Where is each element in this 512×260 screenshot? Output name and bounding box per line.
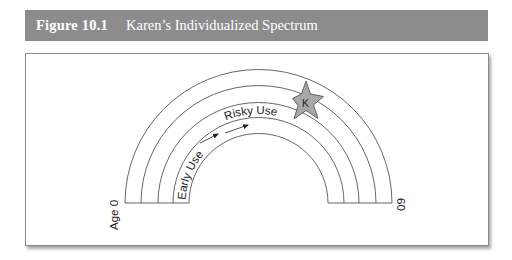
progress-arrows	[200, 125, 248, 143]
early-use-label: Early Use	[176, 148, 206, 200]
star-marker: K	[293, 81, 324, 119]
arc-1	[125, 70, 392, 204]
arc-5	[189, 134, 328, 204]
arrow-icon	[225, 125, 248, 133]
age-end-label: 60	[395, 198, 407, 211]
spectrum-diagram: Early Use Risky Use K Age 0 60	[0, 0, 512, 260]
arc-2	[141, 86, 376, 203]
age-start-label: Age 0	[108, 200, 120, 230]
spectrum-arcs	[125, 70, 392, 204]
star-label: K	[302, 97, 309, 109]
